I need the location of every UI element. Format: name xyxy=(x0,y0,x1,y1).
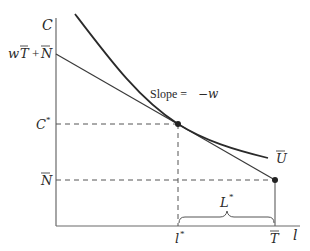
svg-text:+: + xyxy=(32,46,39,61)
svg-text:w: w xyxy=(8,46,19,61)
x-label-t-bar: T xyxy=(270,231,280,246)
y-axis-label: C xyxy=(42,17,53,33)
svg-text:−w: −w xyxy=(198,87,219,101)
svg-text:*: * xyxy=(229,192,234,202)
svg-text:N: N xyxy=(40,46,53,61)
y-label-n-bar: N xyxy=(40,173,53,188)
l-star-bracket-label: L * xyxy=(219,192,234,210)
svg-text:l: l xyxy=(175,231,179,246)
svg-text:Slope =: Slope = xyxy=(150,87,190,101)
budget-line xyxy=(56,54,275,180)
svg-text:C: C xyxy=(36,117,46,132)
l-star-brace xyxy=(179,211,274,223)
svg-text:*: * xyxy=(180,229,185,239)
svg-text:N: N xyxy=(40,173,53,188)
svg-text:*: * xyxy=(46,115,51,125)
x-label-l-star: l * xyxy=(175,229,185,246)
indifference-curve-label: U xyxy=(276,151,288,166)
slope-label: Slope = −w xyxy=(150,87,219,101)
svg-text:L: L xyxy=(219,195,229,210)
svg-text:T: T xyxy=(270,231,280,246)
svg-text:U: U xyxy=(276,151,288,166)
endowment-point xyxy=(272,177,278,183)
y-label-c-star: C * xyxy=(36,115,51,132)
optimum-point xyxy=(175,121,181,127)
labor-leisure-diagram: C l w T + N C * N l * T Slope = −w U L * xyxy=(0,0,310,251)
x-axis-label: l xyxy=(293,227,297,243)
indifference-curve xyxy=(75,14,268,158)
y-label-wT-plus-N: w T + N xyxy=(8,46,53,61)
svg-text:T: T xyxy=(20,46,30,61)
